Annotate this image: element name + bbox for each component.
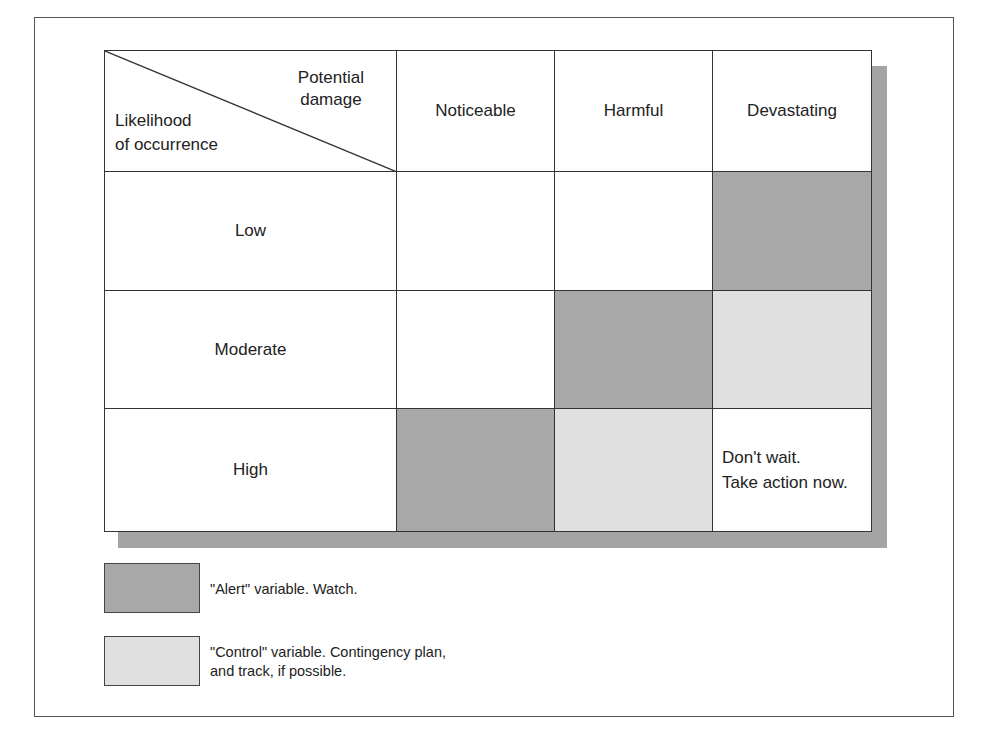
likelihood-label: Likelihood of occurrence <box>115 109 218 157</box>
corner-top-line1: Potential <box>298 67 364 89</box>
legend-swatch-alert <box>104 563 200 613</box>
cell-high-noticeable-alert <box>397 409 555 531</box>
note-line2: Take action now. <box>722 470 848 495</box>
legend-control-line2: and track, if possible. <box>210 662 446 681</box>
note-line1: Don't wait. <box>722 445 848 470</box>
corner-bottom-line1: Likelihood <box>115 109 218 133</box>
cell-low-devastating-alert <box>713 172 871 291</box>
row-header-moderate: Moderate <box>105 291 397 409</box>
corner-header-cell: Potential damage Likelihood of occurrenc… <box>105 51 397 172</box>
risk-matrix: Potential damage Likelihood of occurrenc… <box>104 50 872 532</box>
cell-high-harmful-control <box>555 409 713 531</box>
cell-high-devastating-note: Don't wait. Take action now. <box>713 409 871 531</box>
corner-bottom-line2: of occurrence <box>115 133 218 157</box>
column-header-harmful: Harmful <box>555 51 713 172</box>
legend-text-control: "Control" variable. Contingency plan, an… <box>210 643 446 681</box>
row-header-low: Low <box>105 172 397 291</box>
legend-swatch-control <box>104 636 200 686</box>
cell-moderate-devastating-control <box>713 291 871 409</box>
legend-text-alert: "Alert" variable. Watch. <box>210 580 358 599</box>
cell-low-noticeable <box>397 172 555 291</box>
column-header-noticeable: Noticeable <box>397 51 555 172</box>
row-header-high: High <box>105 409 397 531</box>
cell-moderate-noticeable <box>397 291 555 409</box>
corner-top-line2: damage <box>298 89 364 111</box>
cell-moderate-harmful-alert <box>555 291 713 409</box>
legend-control-line1: "Control" variable. Contingency plan, <box>210 643 446 662</box>
column-header-devastating: Devastating <box>713 51 871 172</box>
cell-low-harmful <box>555 172 713 291</box>
legend-alert-line1: "Alert" variable. Watch. <box>210 580 358 599</box>
potential-damage-label: Potential damage <box>298 67 364 111</box>
